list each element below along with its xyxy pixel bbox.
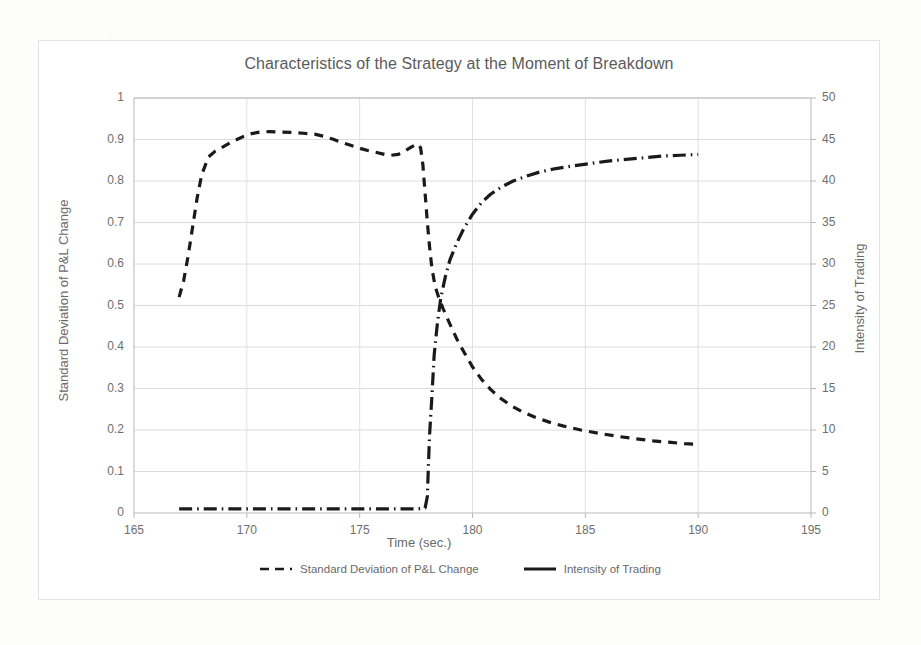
y-tick-label-right: 40: [822, 173, 862, 187]
legend-swatch-solid: [523, 564, 557, 574]
y-tick-label-right: 45: [822, 132, 862, 146]
y-tick-label-left: 0: [84, 505, 124, 519]
y-tick-label-right: 5: [822, 464, 862, 478]
y-tick-label-left: 0.4: [84, 339, 124, 353]
x-tick-label: 165: [109, 523, 159, 537]
y-tick-label-right: 10: [822, 422, 862, 436]
legend-item-std-dev: Standard Deviation of P&L Change: [259, 563, 479, 575]
y-tick-label-left: 0.8: [84, 173, 124, 187]
x-tick-label: 180: [448, 523, 498, 537]
chart-legend: Standard Deviation of P&L Change Intensi…: [39, 563, 881, 575]
y-tick-label-right: 0: [822, 505, 862, 519]
y-tick-label-right: 35: [822, 215, 862, 229]
legend-swatch-dashed: [259, 564, 293, 574]
x-tick-label: 175: [335, 523, 385, 537]
y-tick-label-left: 0.1: [84, 464, 124, 478]
y-tick-label-left: 0.2: [84, 422, 124, 436]
y-tick-label-left: 1: [84, 90, 124, 104]
x-tick-label: 170: [222, 523, 272, 537]
y-tick-label-right: 20: [822, 339, 862, 353]
series-line-2: [179, 154, 698, 508]
x-tick-label: 190: [673, 523, 723, 537]
y-tick-label-right: 50: [822, 90, 862, 104]
series-line-1: [179, 132, 698, 445]
legend-item-intensity: Intensity of Trading: [523, 563, 661, 575]
y-tick-label-left: 0.6: [84, 256, 124, 270]
y-tick-label-left: 0.3: [84, 381, 124, 395]
y-tick-label-right: 30: [822, 256, 862, 270]
y-tick-label-left: 0.7: [84, 215, 124, 229]
y-axis-left-title: Standard Deviation of P&L Change: [56, 101, 71, 501]
plot-canvas: [39, 41, 881, 601]
x-axis-title: Time (sec.): [39, 535, 799, 550]
legend-label-intensity: Intensity of Trading: [564, 563, 661, 575]
y-tick-label-right: 25: [822, 298, 862, 312]
x-tick-label: 185: [560, 523, 610, 537]
y-tick-label-left: 0.5: [84, 298, 124, 312]
chart-figure: Characteristics of the Strategy at the M…: [38, 40, 880, 600]
legend-label-std-dev: Standard Deviation of P&L Change: [300, 563, 479, 575]
x-tick-label: 195: [786, 523, 836, 537]
y-tick-label-left: 0.9: [84, 132, 124, 146]
y-tick-label-right: 15: [822, 381, 862, 395]
